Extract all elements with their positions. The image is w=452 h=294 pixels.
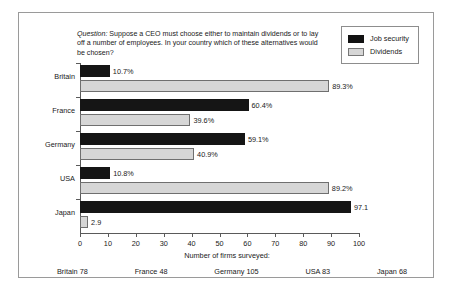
bar-usa-dividends: 89.2% xyxy=(80,182,329,194)
bar-britain-dividends: 89.3% xyxy=(80,80,329,92)
country-label-france: France xyxy=(52,106,75,115)
bar-value-label: 89.2% xyxy=(332,184,353,193)
firms-surveyed-entry: Britain 78 xyxy=(57,267,88,276)
country-group-japan: Japan97.12.9 xyxy=(80,199,359,233)
firms-surveyed-row: Britain 78France 48Germany 105USA 83Japa… xyxy=(57,267,407,276)
bar-france-dividends: 39.6% xyxy=(80,114,190,126)
bar-germany-dividends: 40.9% xyxy=(80,148,194,160)
plot-area: Britain10.7%89.3%France60.4%39.6%Germany… xyxy=(80,63,359,233)
bar-germany-job-security: 59.1% xyxy=(80,133,245,145)
legend-swatch-job-security-icon xyxy=(348,35,364,43)
country-group-germany: Germany59.1%40.9% xyxy=(80,131,359,165)
x-axis-tick-label: 30 xyxy=(160,239,168,248)
bar-value-label: 39.6% xyxy=(193,116,214,125)
x-axis-tick xyxy=(80,233,81,237)
country-label-usa: USA xyxy=(60,174,75,183)
bar-value-label: 60.4% xyxy=(252,101,273,110)
y-axis-tick xyxy=(76,63,80,64)
bar-france-job-security: 60.4% xyxy=(80,99,249,111)
y-axis-tick xyxy=(76,97,80,98)
country-label-germany: Germany xyxy=(45,140,75,149)
x-axis-tick xyxy=(359,233,360,237)
legend-label-dividends: Dividends xyxy=(370,47,402,56)
bar-japan-job-security: 97.1 xyxy=(80,201,351,213)
bar-value-label: 40.9% xyxy=(197,150,218,159)
legend-swatch-dividends-icon xyxy=(348,48,364,56)
x-axis-tick xyxy=(136,233,137,237)
bar-value-label: 59.1% xyxy=(248,135,269,144)
x-axis-tick xyxy=(192,233,193,237)
x-axis-tick xyxy=(164,233,165,237)
axis-caption: Number of firms surveyed: xyxy=(19,251,435,260)
firms-surveyed-entry: Japan 68 xyxy=(377,267,407,276)
x-axis-tick xyxy=(247,233,248,237)
firms-surveyed-entry: Germany 105 xyxy=(214,267,258,276)
x-axis-tick xyxy=(220,233,221,237)
x-axis-tick xyxy=(275,233,276,237)
legend-label-job-security: Job security xyxy=(370,34,409,43)
bar-japan-dividends: 2.9 xyxy=(80,216,88,228)
question-body: Suppose a CEO must choose either to main… xyxy=(77,30,318,57)
country-group-britain: Britain10.7%89.3% xyxy=(80,63,359,97)
x-axis-tick-label: 0 xyxy=(78,239,82,248)
bar-usa-job-security: 10.8% xyxy=(80,167,110,179)
firms-surveyed-entry: USA 83 xyxy=(305,267,330,276)
x-axis-tick-label: 40 xyxy=(188,239,196,248)
country-group-france: France60.4%39.6% xyxy=(80,97,359,131)
x-axis-tick-label: 50 xyxy=(215,239,223,248)
y-axis-tick xyxy=(76,131,80,132)
question-lead: Question: xyxy=(77,30,107,38)
legend-item-dividends: Dividends xyxy=(348,45,409,58)
x-axis-tick-label: 70 xyxy=(271,239,279,248)
x-axis-tick xyxy=(303,233,304,237)
country-group-usa: USA10.8%89.2% xyxy=(80,165,359,199)
bar-britain-job-security: 10.7% xyxy=(80,65,110,77)
y-axis-tick xyxy=(76,165,80,166)
chart-frame: Question: Suppose a CEO must choose eith… xyxy=(18,12,434,278)
x-axis-tick-label: 10 xyxy=(104,239,112,248)
x-axis-tick xyxy=(108,233,109,237)
firms-surveyed-entry: France 48 xyxy=(135,267,168,276)
x-axis-tick-label: 90 xyxy=(327,239,335,248)
country-label-britain: Britain xyxy=(54,72,75,81)
bar-value-label: 2.9 xyxy=(91,218,101,227)
x-axis-tick-label: 80 xyxy=(299,239,307,248)
question-text: Question: Suppose a CEO must choose eith… xyxy=(77,30,322,58)
bar-value-label: 10.8% xyxy=(113,169,134,178)
legend-item-job-security: Job security xyxy=(348,32,409,45)
x-axis-tick-label: 60 xyxy=(243,239,251,248)
x-axis-tick-label: 20 xyxy=(132,239,140,248)
country-label-japan: Japan xyxy=(55,208,75,217)
bar-value-label: 97.1 xyxy=(354,203,368,212)
chart-legend: Job security Dividends xyxy=(341,26,419,64)
y-axis-tick xyxy=(76,199,80,200)
x-axis-tick-label: 100 xyxy=(353,239,365,248)
bar-value-label: 89.3% xyxy=(332,82,353,91)
bar-value-label: 10.7% xyxy=(113,67,134,76)
x-axis-tick xyxy=(331,233,332,237)
